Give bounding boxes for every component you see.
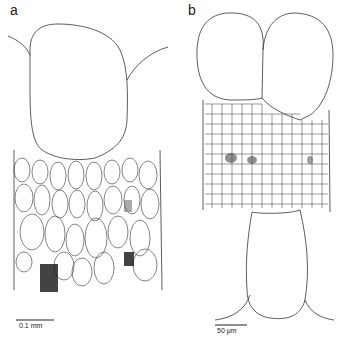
scale-label-a: 0.1 mm — [19, 322, 42, 329]
panel-b-drawing — [197, 13, 334, 320]
line-drawing — [0, 0, 342, 345]
scale-label-b: 50 μm — [217, 327, 237, 334]
panel-label-a: a — [10, 2, 18, 18]
panel-a-drawing — [8, 24, 168, 292]
panel-label-b: b — [188, 2, 196, 18]
